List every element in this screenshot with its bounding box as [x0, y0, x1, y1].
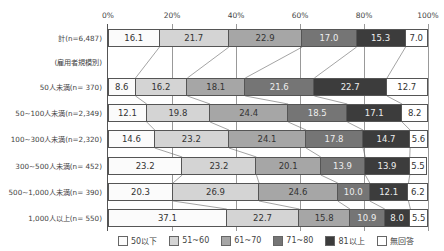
row-label: 計(n=6,487) — [58, 33, 102, 43]
bar-segment: 17.1 — [347, 104, 402, 122]
bar-segment: 13.9 — [365, 157, 409, 175]
bar-segment: 20.1 — [256, 157, 320, 175]
bar-segment: 7.0 — [406, 29, 428, 47]
bar-segment: 22.7 — [314, 78, 387, 96]
legend-swatch — [377, 236, 387, 246]
bar-segment: 5.6 — [410, 130, 428, 148]
bar-segment: 16.2 — [136, 78, 188, 96]
bar-segment: 5.5 — [410, 157, 428, 175]
row-label: 1,000人以上(n= 550) — [28, 213, 102, 223]
bar-segment: 16.1 — [108, 29, 160, 47]
bar-segment: 15.8 — [299, 209, 350, 227]
legend-swatch — [169, 236, 179, 246]
legend-item: 51~60 — [169, 236, 209, 246]
bar-row: 20.326.924.610.012.16.2 — [108, 183, 428, 201]
bar-segment: 15.3 — [357, 29, 406, 47]
bar-row: 16.121.722.917.015.37.0 — [108, 29, 428, 47]
bar-segment: 12.1 — [108, 104, 147, 122]
bar-segment: 5.5 — [410, 209, 428, 227]
bar-segment: 8.2 — [402, 104, 428, 122]
legend-item: 71~80 — [273, 236, 313, 246]
bar-segment: 17.0 — [302, 29, 356, 47]
bar-segment: 13.9 — [321, 157, 365, 175]
bar-segment: 17.8 — [306, 130, 363, 148]
bar-segment: 24.4 — [210, 104, 288, 122]
bar-segment: 23.2 — [155, 130, 229, 148]
bar-segment: 23.2 — [182, 157, 256, 175]
bar-row: 14.623.224.117.814.75.6 — [108, 130, 428, 148]
legend-swatch — [325, 236, 335, 246]
bar-segment: 37.1 — [108, 209, 227, 227]
bar-segment: 22.9 — [229, 29, 302, 47]
bar-segment: 24.6 — [259, 183, 338, 201]
bar-segment: 23.2 — [108, 157, 182, 175]
legend-label: 無回答 — [390, 235, 414, 246]
legend-item: 無回答 — [377, 235, 414, 246]
bar-segment: 22.7 — [227, 209, 300, 227]
legend-swatch — [118, 236, 128, 246]
bar-segment: 14.7 — [363, 130, 410, 148]
bar-segment: 21.6 — [245, 78, 314, 96]
legend: 50以下51~6061~7071~8081以上無回答 — [118, 235, 414, 246]
legend-swatch — [273, 236, 283, 246]
bar-segment: 26.9 — [173, 183, 259, 201]
bar-segment: 18.1 — [187, 78, 245, 96]
bar-segment: 12.7 — [387, 78, 428, 96]
bar-segment: 20.3 — [108, 183, 173, 201]
bar-segment: 10.0 — [338, 183, 370, 201]
legend-label: 50以下 — [131, 235, 157, 246]
row-label: 50~100人未満(n=2,349) — [15, 108, 102, 118]
bar-segment: 24.1 — [229, 130, 306, 148]
legend-label: 51~60 — [182, 236, 209, 245]
bar-row: 12.119.824.418.517.18.2 — [108, 104, 428, 122]
bar-row: 37.122.715.810.98.05.5 — [108, 209, 428, 227]
legend-item: 81以上 — [325, 235, 364, 246]
bar-segment: 14.6 — [108, 130, 155, 148]
bar-segment: 18.5 — [288, 104, 347, 122]
legend-item: 61~70 — [221, 236, 261, 246]
legend-label: 71~80 — [286, 236, 313, 245]
legend-item: 50以下 — [118, 235, 157, 246]
legend-swatch — [221, 236, 231, 246]
bar-segment: 12.1 — [370, 183, 409, 201]
bar-segment: 8.0 — [385, 209, 411, 227]
bar-row: 8.616.218.121.622.712.7 — [108, 78, 428, 96]
bar-segment: 19.8 — [147, 104, 210, 122]
bar-segment: 8.6 — [108, 78, 136, 96]
stacked-bar-chart: 0%20%40%60%80%100%(雇用者規模別)計(n=6,487)16.1… — [0, 0, 444, 251]
bar-segment: 10.9 — [350, 209, 385, 227]
legend-label: 61~70 — [234, 236, 261, 245]
bar-segment: 21.7 — [160, 29, 229, 47]
bar-row: 23.223.220.113.913.95.5 — [108, 157, 427, 175]
row-label: 500~1,000人未満(n= 390) — [8, 187, 102, 197]
row-label: 300~500人未満(n= 452) — [15, 161, 102, 171]
row-label: 50人未満(n= 370) — [40, 82, 102, 92]
legend-label: 81以上 — [338, 235, 364, 246]
bar-segment: 6.2 — [408, 183, 428, 201]
row-label: 100~300人未満(n=2,320) — [11, 134, 102, 144]
